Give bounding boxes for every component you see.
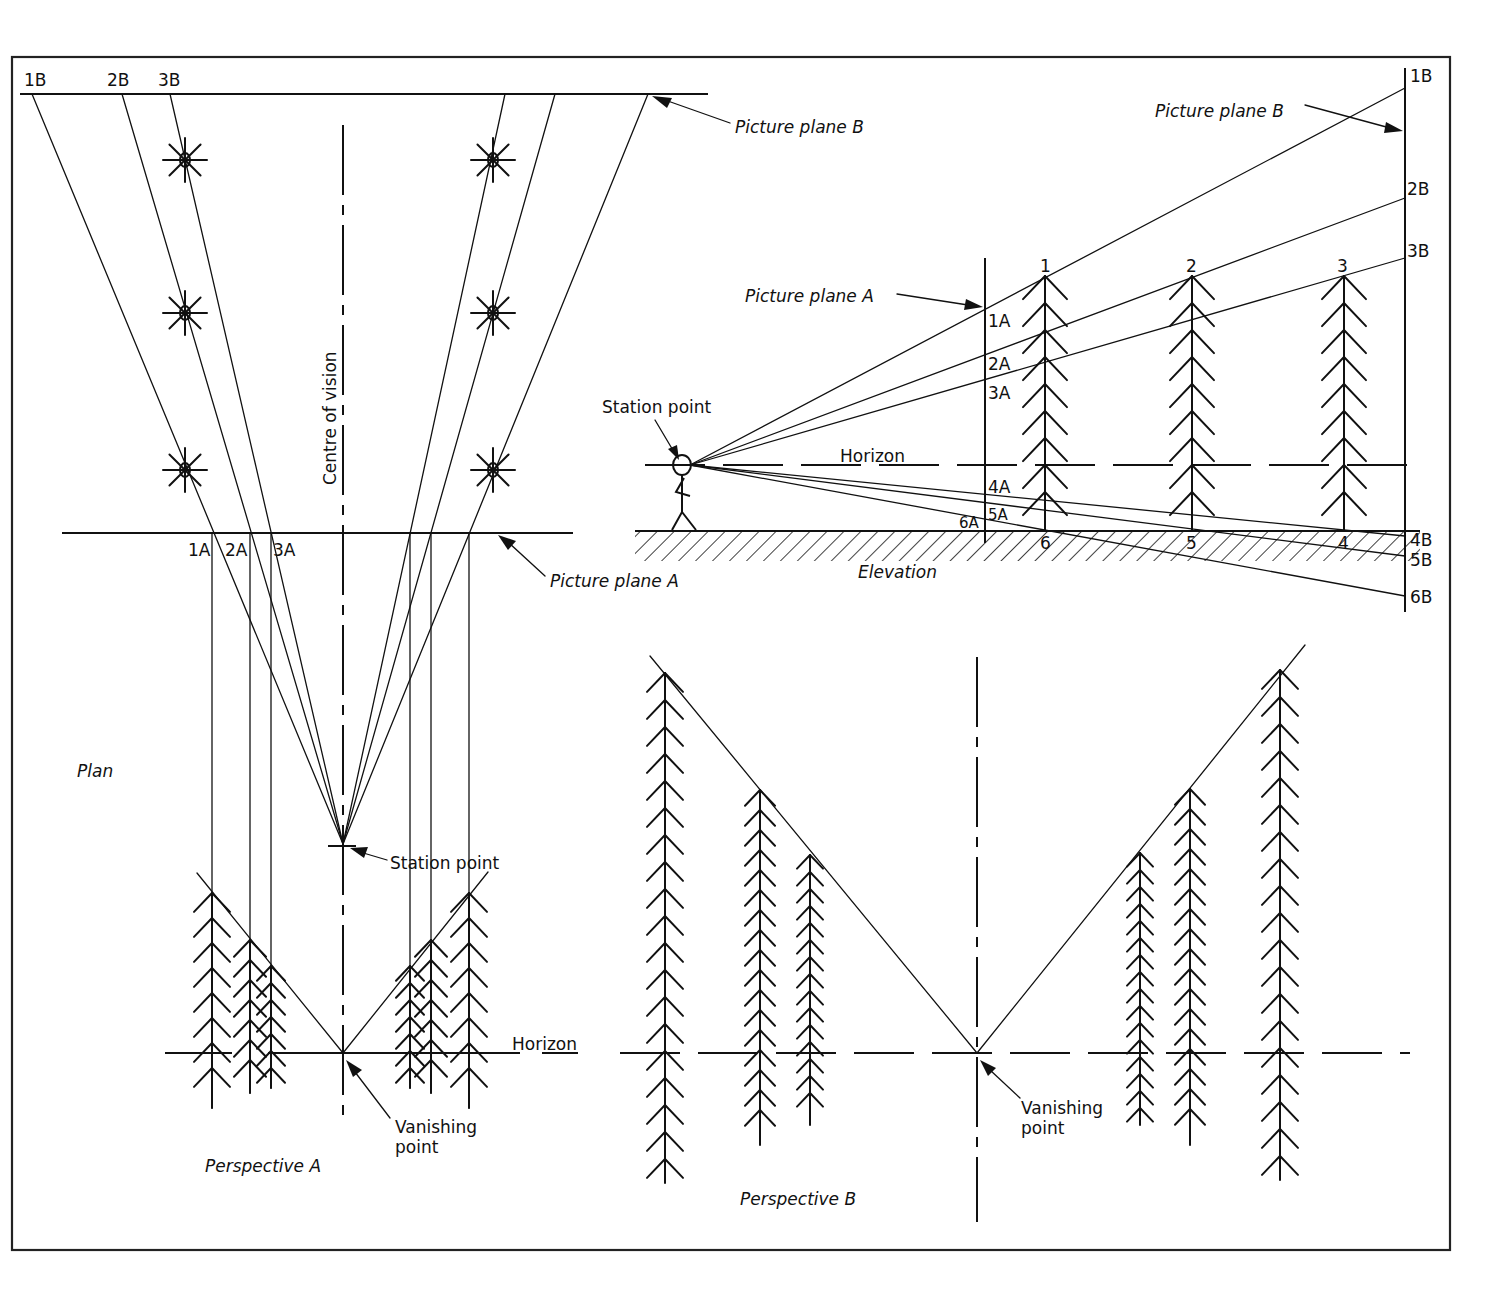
- tree-branch: [760, 890, 775, 906]
- elevation-tree-label-2: 2: [1186, 256, 1197, 276]
- tree-branch: [797, 957, 810, 971]
- tree-icon: [194, 893, 230, 1108]
- tree-branch: [1190, 969, 1205, 985]
- tree-branch: [1170, 330, 1192, 353]
- tree-branch: [745, 910, 760, 926]
- tree-branch: [1170, 492, 1192, 515]
- tree-branch: [1280, 913, 1298, 932]
- diagram-canvas: 1B 2B 3B 1A 2A 3A Centre of vision Pictu…: [0, 0, 1492, 1291]
- tree-branch: [1280, 832, 1298, 851]
- label-2a: 2A: [225, 540, 248, 560]
- elevation-label-1a: 1A: [988, 311, 1011, 331]
- elevation-tree-label-6: 6: [1040, 533, 1051, 553]
- tree-branch: [760, 950, 775, 966]
- tree-branch: [1262, 778, 1280, 797]
- tree-branch: [234, 1040, 250, 1057]
- label-1b: 1B: [24, 70, 46, 90]
- tree-branch: [431, 1020, 447, 1037]
- plan-station-point-label: Station point: [390, 853, 500, 873]
- tree-branch: [1170, 411, 1192, 434]
- perspective-b-view: Vanishing point Perspective B: [620, 645, 1410, 1222]
- tree-branch: [797, 991, 810, 1005]
- tree-branch: [234, 1000, 250, 1017]
- tree-branch: [810, 1093, 823, 1107]
- plan-tree-ray: [477, 470, 493, 486]
- label-2b: 2B: [107, 70, 129, 90]
- elevation-label-4a: 4A: [988, 477, 1011, 497]
- tree-branch: [1175, 929, 1190, 945]
- tree-branch: [1262, 859, 1280, 878]
- tree-icon: [797, 855, 823, 1125]
- tree-branch: [1280, 778, 1298, 797]
- sight-line: [122, 94, 343, 844]
- elevation-label-3a: 3A: [988, 383, 1011, 403]
- tree-branch: [760, 1030, 775, 1046]
- tree-branch: [760, 1110, 775, 1126]
- tree-branch: [431, 980, 447, 997]
- tree-branch: [1140, 1108, 1153, 1122]
- sight-line: [343, 94, 555, 844]
- tree-branch: [212, 1068, 230, 1087]
- tree-branch: [1344, 411, 1366, 434]
- tree-branch: [665, 727, 683, 746]
- tree-branch: [1140, 921, 1153, 935]
- tree-branch: [1175, 909, 1190, 925]
- tree-branch: [271, 983, 285, 998]
- tree-branch: [1190, 1049, 1205, 1065]
- tree-branch: [810, 940, 823, 954]
- tree-branch: [1140, 870, 1153, 884]
- tree-branch: [1023, 357, 1045, 380]
- tree-branch: [647, 970, 665, 989]
- tree-branch: [1280, 670, 1298, 689]
- tree-branch: [665, 1078, 683, 1097]
- arrowhead-icon: [350, 847, 368, 858]
- perspective-a-caption: Perspective A: [205, 1156, 321, 1176]
- tree-branch: [250, 1020, 266, 1037]
- tree-branch: [1280, 1156, 1298, 1175]
- tree-branch: [1280, 994, 1298, 1013]
- plan-tree-ray: [477, 454, 493, 470]
- tree-branch: [396, 1034, 410, 1049]
- tree-branch: [469, 1018, 487, 1037]
- picture-plane-b-arrow: [665, 100, 730, 123]
- tree-branch: [1127, 1057, 1140, 1071]
- vanishing-point-a-arrow: [355, 1072, 390, 1118]
- tree-branch: [1045, 303, 1067, 326]
- tree-branch: [647, 916, 665, 935]
- tree-branch: [760, 850, 775, 866]
- tree-branch: [1262, 724, 1280, 743]
- tree-branch: [431, 1000, 447, 1017]
- tree-branch: [1280, 805, 1298, 824]
- tree-branch: [647, 700, 665, 719]
- tree-branch: [1190, 849, 1205, 865]
- ground-hatching: [635, 531, 1420, 561]
- tree-branch: [1344, 330, 1366, 353]
- tree-branch: [469, 893, 487, 912]
- tree-icon: [1023, 276, 1067, 531]
- tree-branch: [234, 1020, 250, 1037]
- tree-branch: [1140, 972, 1153, 986]
- tree-branch: [810, 957, 823, 971]
- tree-branch: [745, 870, 760, 886]
- elevation-sight-lines: [690, 88, 1405, 596]
- tree-branch: [1344, 276, 1366, 299]
- elevation-tree-label-4: 4: [1338, 533, 1349, 553]
- tree-branch: [1045, 411, 1067, 434]
- picture-plane-a-arrow: [508, 542, 545, 576]
- tree-branch: [1175, 809, 1190, 825]
- tree-branch: [1322, 303, 1344, 326]
- tree-branch: [1190, 1109, 1205, 1125]
- tree-branch: [647, 1105, 665, 1124]
- plan-tree-icon: [471, 138, 515, 182]
- elevation-label-6a: 6A: [959, 514, 980, 532]
- tree-branch: [1280, 724, 1298, 743]
- tree-branch: [1280, 1102, 1298, 1121]
- tree-branch: [647, 781, 665, 800]
- tree-branch: [797, 974, 810, 988]
- tree-branch: [1262, 913, 1280, 932]
- tree-branch: [1045, 276, 1067, 299]
- plan-tree-ray: [169, 160, 185, 176]
- tree-branch: [1140, 1006, 1153, 1020]
- tree-branch: [1140, 904, 1153, 918]
- tree-branch: [760, 930, 775, 946]
